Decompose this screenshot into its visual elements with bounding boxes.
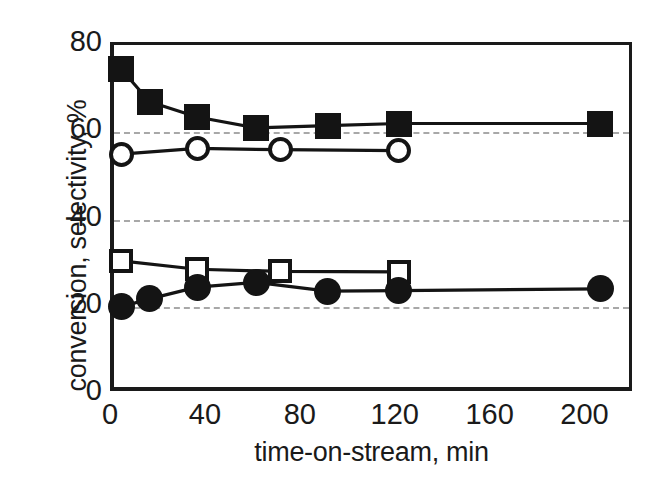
x-tick-label: 200 xyxy=(540,400,630,429)
x-tick-label: 160 xyxy=(445,400,535,429)
y-tick-label: 40 xyxy=(32,202,102,231)
data-point-filled-square xyxy=(587,111,613,137)
data-point-filled-square xyxy=(137,89,163,115)
data-point-filled-circle xyxy=(243,269,270,296)
data-point-filled-square xyxy=(184,104,210,130)
data-point-open-square xyxy=(109,249,133,273)
data-point-open-circle xyxy=(185,136,210,161)
data-point-open-square xyxy=(268,259,292,283)
y-tick-label: 60 xyxy=(32,114,102,143)
plot-area xyxy=(110,42,632,391)
x-tick-label: 0 xyxy=(65,400,155,429)
x-tick-label: 80 xyxy=(255,400,345,429)
data-point-filled-circle xyxy=(314,278,341,305)
series-line xyxy=(121,148,399,154)
data-point-filled-circle xyxy=(108,293,135,320)
data-point-open-circle xyxy=(268,137,293,162)
data-point-open-circle xyxy=(109,142,134,167)
x-tick-label: 120 xyxy=(350,400,440,429)
series-lines xyxy=(114,45,636,394)
y-tick-label: 80 xyxy=(32,27,102,56)
x-axis-ticks: 04080120160200 xyxy=(0,400,663,440)
x-tick-label: 40 xyxy=(160,400,250,429)
data-point-filled-square xyxy=(315,113,341,139)
data-point-filled-square xyxy=(243,115,269,141)
y-tick-label: 20 xyxy=(32,289,102,318)
plot-inner xyxy=(114,45,629,387)
x-axis-label: time-on-stream, min xyxy=(110,437,633,468)
chart-figure: conversion, selectivity, % 020406080 040… xyxy=(0,0,663,491)
data-point-filled-square xyxy=(386,111,412,137)
data-point-filled-square xyxy=(108,56,134,82)
data-point-filled-circle xyxy=(184,274,211,301)
